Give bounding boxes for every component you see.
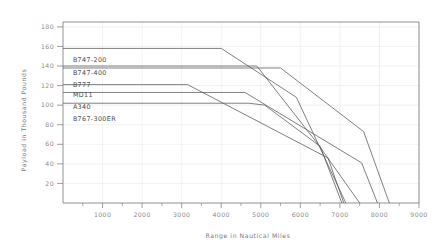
series-line-md11 xyxy=(63,85,344,203)
x-tick-label: 5000 xyxy=(252,211,269,218)
x-tick-label: 9000 xyxy=(410,211,427,218)
chart-canvas: 2040608010012014016018010002000300040005… xyxy=(0,0,433,245)
y-tick-label: 60 xyxy=(45,140,54,147)
y-tick-label: 160 xyxy=(41,43,54,50)
series-lines xyxy=(63,48,389,203)
y-tick-label: 20 xyxy=(45,180,54,187)
x-axis-title: Range in Nautical Miles xyxy=(205,232,290,240)
y-tick-label: 100 xyxy=(41,101,54,108)
x-tick-label: 4000 xyxy=(213,211,230,218)
payload-range-chart: 2040608010012014016018010002000300040005… xyxy=(0,0,433,245)
y-tick-label: 80 xyxy=(45,121,54,128)
y-tick-label: 140 xyxy=(41,62,54,69)
y-axis-title: Payload in Thousand Pounds xyxy=(20,69,28,172)
x-tick-label: 7000 xyxy=(331,211,348,218)
series-label-b747-400: B747-400 xyxy=(73,69,107,77)
series-label-a340: A340 xyxy=(73,103,91,111)
x-tick-label: 1000 xyxy=(94,211,111,218)
x-tick-label: 2000 xyxy=(133,211,150,218)
x-tick-label: 6000 xyxy=(292,211,309,218)
series-line-a340 xyxy=(63,92,377,203)
series-label-b777: B777 xyxy=(73,81,91,89)
series-label-b747-200: B747-200 xyxy=(73,56,107,64)
series-line-b777 xyxy=(63,68,389,203)
x-tick-label: 8000 xyxy=(371,211,388,218)
y-tick-label: 120 xyxy=(41,82,54,89)
series-label-md11: MD11 xyxy=(73,91,93,99)
x-tick-label: 3000 xyxy=(173,211,190,218)
y-tick-label: 40 xyxy=(45,160,54,167)
y-tick-label: 180 xyxy=(41,23,54,30)
series-label-b767-300er: B767-300ER xyxy=(73,115,116,123)
